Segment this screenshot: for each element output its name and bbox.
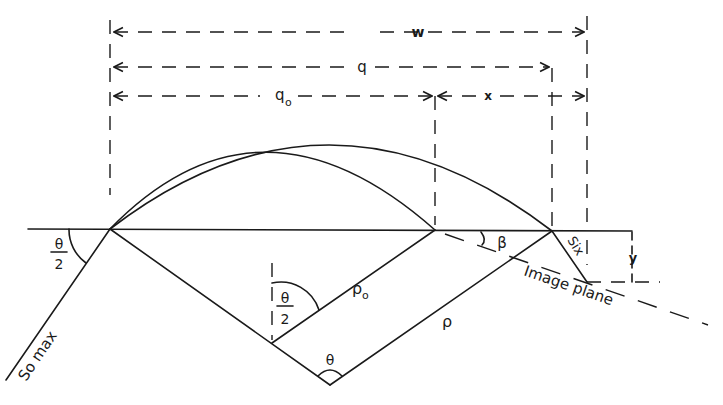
label-beta: β xyxy=(497,234,507,252)
arc-inner xyxy=(110,152,435,230)
label-theta-half-inner-num: θ xyxy=(281,290,290,306)
angle-arc-beta xyxy=(481,232,484,245)
label-y: y xyxy=(629,250,638,265)
label-rho: ρ xyxy=(442,312,452,331)
optics-diagram: w q q o x So max θ 2 θ 2 θ ρ o ρ Image p… xyxy=(0,0,723,405)
label-x: x xyxy=(484,89,492,103)
angle-arc-left xyxy=(69,229,86,263)
baseline xyxy=(28,229,632,231)
label-so-max: So max xyxy=(14,328,60,385)
label-q: q xyxy=(357,58,367,76)
angle-arc-theta xyxy=(318,370,342,376)
line-rho xyxy=(330,231,552,385)
label-theta-half-left-den: 2 xyxy=(55,256,64,272)
label-q0-subscript: o xyxy=(285,96,292,109)
line-left-to-vertex xyxy=(110,229,330,385)
label-image-plane: Image plane xyxy=(522,262,616,309)
label-theta-half-left-num: θ xyxy=(55,236,64,252)
label-rho0-subscript: o xyxy=(362,289,369,302)
label-q0: q xyxy=(275,86,285,104)
label-theta: θ xyxy=(326,352,335,368)
arc-outer xyxy=(110,145,552,231)
label-theta-half-inner-den: 2 xyxy=(281,311,290,327)
label-rho0: ρ xyxy=(352,279,362,298)
label-w: w xyxy=(412,24,425,40)
